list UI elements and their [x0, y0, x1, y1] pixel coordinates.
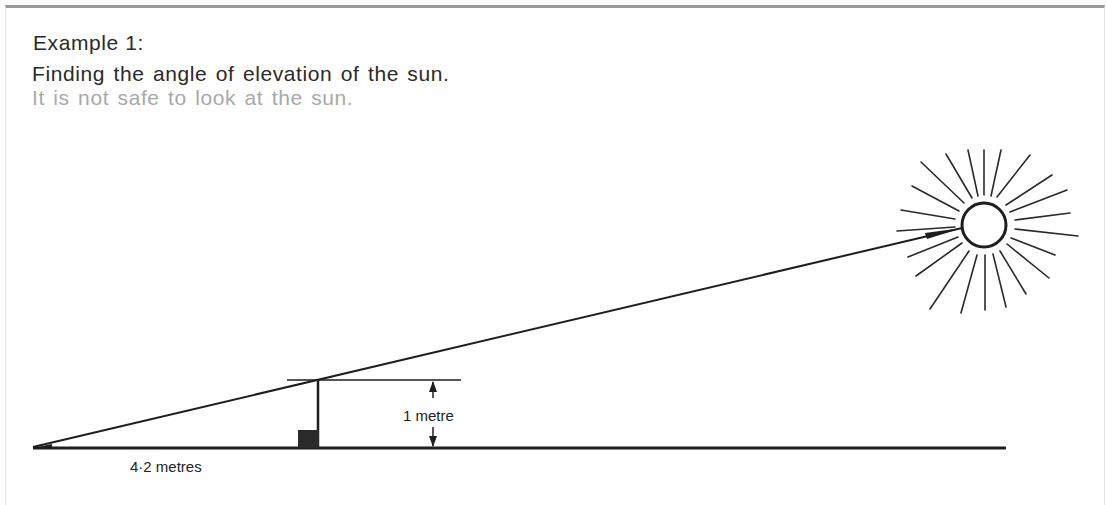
line-to-sun — [33, 228, 962, 447]
stick-base-block — [298, 430, 319, 448]
shadow-length-label: 4·2 metres — [130, 458, 202, 475]
sun-icon — [897, 150, 1078, 313]
stick-height-label: 1 metre — [403, 407, 454, 424]
